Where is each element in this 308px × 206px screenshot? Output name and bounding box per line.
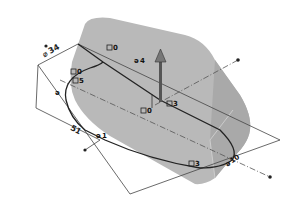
relation-label: 3 [195, 160, 200, 168]
relation-label: 3 [173, 100, 178, 108]
tangent-icon: ə [55, 89, 60, 97]
centerline-endpoint[interactable] [236, 58, 240, 62]
dim-line [36, 65, 38, 108]
relation-tangent[interactable]: ə 1 [96, 132, 107, 140]
relation-label: 4 [140, 57, 145, 65]
relation-label: 0 [77, 68, 82, 76]
relation-label: 1 [102, 132, 107, 140]
centerline-endpoint[interactable] [268, 175, 272, 179]
sketch-viewport[interactable]: 0 ə 4 0 5 0 3 3 ə 1 ə 10 ⌀ 34 51 ə [0, 0, 308, 206]
dimension-34[interactable]: ⌀ 34 [41, 42, 62, 59]
relation-label: 0 [147, 107, 152, 115]
relation-label: 0 [113, 44, 118, 52]
relation-tangent[interactable]: ə 4 [134, 57, 145, 65]
tangent-icon: ə [96, 132, 101, 140]
relation-label: 5 [79, 77, 84, 85]
dim-endpoint[interactable] [83, 148, 86, 151]
tangent-icon: ə [134, 57, 139, 65]
